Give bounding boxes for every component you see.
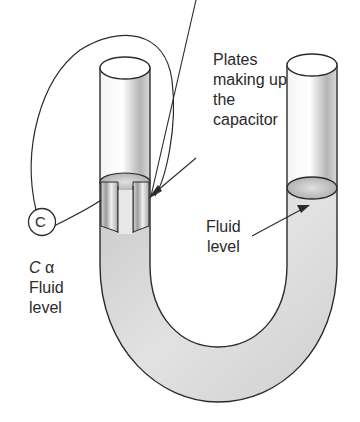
capacitor-symbol-label: C — [35, 212, 46, 232]
u-tube-diagram — [0, 0, 360, 422]
proportionality-symbol: C α — [29, 258, 64, 278]
left-tube — [100, 57, 150, 182]
right-tube — [287, 54, 337, 199]
proportionality-label: C α Fluid level — [29, 258, 64, 318]
fluid-level-label: Fluid level — [206, 217, 241, 257]
right-fluid-surface — [287, 177, 337, 199]
plates-label: Plates making up the capacitor — [213, 50, 287, 130]
plates-arrow — [148, 0, 196, 199]
capacitor-plates — [100, 173, 150, 234]
